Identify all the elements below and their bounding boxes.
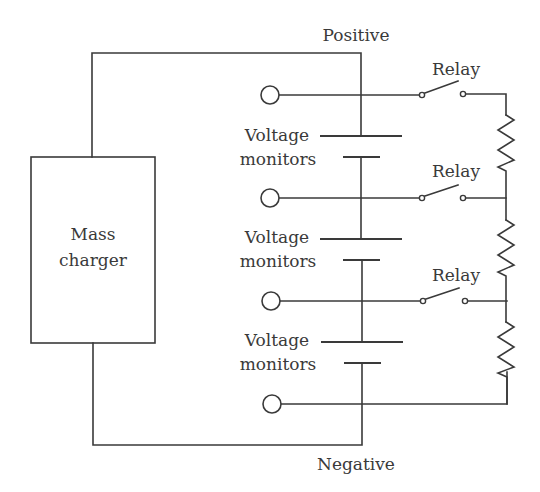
voltage-monitor-3-label-line1: Voltage — [244, 330, 309, 350]
relay-3-contact-right — [462, 298, 467, 303]
positive-bus: Positive — [92, 25, 390, 157]
mass-charger-label-line2: charger — [59, 250, 128, 270]
relay-1-switch-blade — [425, 81, 458, 93]
voltage-monitor-3-label-line2: monitors — [240, 354, 317, 374]
relay-3-switch-blade — [426, 288, 459, 299]
voltage-monitor-1-label-line2: monitors — [240, 149, 317, 169]
mass-charger: Mass charger — [31, 157, 155, 343]
battery-cell-1: Voltage monitors — [240, 125, 402, 239]
terminal-3 — [262, 292, 280, 310]
voltage-monitor-2-label-line2: monitors — [240, 251, 317, 271]
relay-3-label: Relay — [432, 265, 480, 285]
relay-2: Relay — [419, 161, 506, 201]
relay-2-contact-right — [460, 195, 465, 200]
relay-1-contact-right — [460, 91, 465, 96]
relay-2-switch-blade — [425, 185, 458, 196]
relay-1-label: Relay — [432, 59, 480, 79]
mass-charger-label-line1: Mass — [71, 224, 116, 244]
battery-balancing-circuit-diagram: Mass charger Positive Negative Voltage m… — [0, 0, 540, 492]
resistor-rail — [498, 115, 514, 404]
resistor-3 — [498, 322, 514, 404]
relay-3: Relay — [420, 265, 507, 304]
tap-wire-4 — [280, 372, 507, 404]
terminal-1 — [261, 86, 279, 104]
voltage-monitor-1-label-line1: Voltage — [244, 125, 309, 145]
positive-label: Positive — [322, 25, 389, 45]
negative-label: Negative — [317, 454, 395, 474]
negative-wire — [93, 343, 362, 445]
relay-2-label: Relay — [432, 161, 480, 181]
terminal-4 — [263, 395, 281, 413]
relay-3-contact-left — [420, 298, 425, 303]
relay-1-output-wire — [466, 94, 506, 115]
terminal-2 — [261, 189, 279, 207]
positive-wire — [92, 53, 361, 157]
resistor-1 — [498, 115, 514, 220]
relay-2-contact-left — [419, 195, 424, 200]
relay-1-contact-left — [419, 92, 424, 97]
voltage-monitor-2-label-line1: Voltage — [244, 227, 309, 247]
battery-cell-3: Voltage monitors — [240, 330, 403, 374]
resistor-2 — [498, 220, 514, 322]
battery-cell-2: Voltage monitors — [240, 227, 402, 342]
relay-1: Relay — [419, 59, 506, 115]
